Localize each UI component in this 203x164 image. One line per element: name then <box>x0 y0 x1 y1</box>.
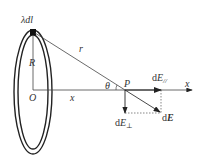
r-label: r <box>79 43 83 54</box>
theta-label: θ <box>105 80 110 91</box>
charge-element-label: λdl <box>20 14 33 25</box>
dE-label: dE <box>162 112 174 123</box>
point-P-label: P <box>123 78 130 89</box>
dE-parallel-label: dE// <box>152 72 168 85</box>
dE-vector <box>125 90 160 112</box>
charge-element-marker <box>30 29 36 35</box>
x-distance-label: x <box>69 92 75 103</box>
r-line <box>35 33 125 90</box>
radius-label: R <box>28 57 35 68</box>
dE-perp-label: dE⊥ <box>115 117 133 130</box>
x-axis-label: x <box>184 78 190 89</box>
angle-arc <box>116 85 117 90</box>
origin-label: O <box>29 92 36 103</box>
ring-field-diagram: λdl R r O x x θ P dE// dE⊥ dE <box>0 0 203 164</box>
